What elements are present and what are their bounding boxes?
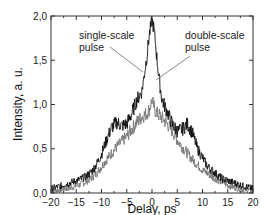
annotations: single-scalepulsedouble-scalepulse [79, 29, 245, 80]
y-tick-label: 0,5 [33, 143, 47, 154]
x-tick-label: −20 [43, 197, 60, 208]
x-tick-label: −10 [93, 197, 110, 208]
y-tick-label: 1,0 [33, 99, 47, 110]
x-tick-label: 15 [222, 197, 234, 208]
x-axis-label: Delay, ps [127, 202, 176, 215]
y-tick-label: 2,0 [33, 11, 47, 22]
annotation-double-scale: double-scale [185, 29, 245, 41]
y-tick-label: 1,5 [33, 55, 47, 66]
annotation-single-scale: single-scale [79, 29, 135, 41]
chart-canvas: single-scalepulsedouble-scalepulse −20−1… [0, 0, 269, 215]
annotation-pointer-double [156, 56, 190, 80]
annotation-double-scale-line2: pulse [185, 41, 210, 53]
annotation-single-scale-line2: pulse [79, 41, 104, 53]
x-tick-label: −15 [68, 197, 85, 208]
x-tick-label: 10 [197, 197, 209, 208]
x-tick-label: 20 [247, 197, 259, 208]
y-axis-label: Intensity, a. u. [11, 67, 25, 141]
y-tick-label: 0,0 [33, 188, 47, 199]
annotation-pointer-single [110, 47, 143, 72]
